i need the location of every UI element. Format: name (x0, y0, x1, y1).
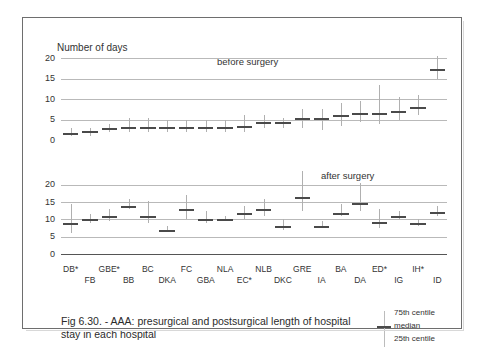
median-marker (159, 127, 174, 129)
x-axis-label-da: DA (354, 275, 366, 285)
median-marker (140, 127, 155, 129)
boxplot-series-after-surgery (39, 166, 449, 266)
x-axis-label-fb: FB (85, 275, 96, 285)
whisker-line (437, 206, 438, 216)
median-marker (275, 122, 290, 124)
axis-baseline (61, 254, 447, 255)
x-axis-label-gbestar: GBE* (99, 264, 120, 274)
legend-whisker-icon (384, 311, 385, 347)
x-axis-label-ig: IG (394, 275, 403, 285)
median-marker (391, 216, 406, 218)
median-marker (256, 122, 271, 124)
median-marker (295, 197, 310, 199)
figure-frame: Number of days before surgery 05101520 a… (22, 17, 462, 329)
x-axis-category-labels: DB*FBGBE*BBBCDKAFCGBANLAEC*NLBDKCGREIABA… (39, 264, 449, 290)
legend-label-25th: 25th centile (394, 334, 435, 344)
median-marker (275, 226, 290, 228)
figure-caption: Fig 6.30. - AAA: presurgical and postsur… (61, 315, 361, 341)
x-axis-label-dka: DKA (158, 275, 175, 285)
median-marker (352, 203, 367, 205)
x-axis-label-dkc: DKC (274, 275, 292, 285)
median-marker (121, 127, 136, 129)
whisker-line (379, 85, 380, 124)
median-marker (333, 213, 348, 215)
x-axis-label-ia: IA (318, 275, 326, 285)
whisker-line (71, 204, 72, 233)
median-marker (63, 133, 78, 135)
whisker-line (418, 95, 419, 115)
x-axis-label-nla: NLA (217, 264, 234, 274)
legend-median-icon (377, 326, 391, 328)
median-marker (430, 212, 445, 214)
median-marker (198, 219, 213, 221)
median-marker (372, 222, 387, 224)
chart-panel-before-surgery: Number of days before surgery 05101520 (39, 44, 449, 154)
median-marker (352, 113, 367, 115)
whisker-line (129, 118, 130, 132)
x-axis-label-ba: BA (335, 264, 346, 274)
whisker-line (264, 199, 265, 216)
median-marker (179, 127, 194, 129)
x-axis-label-gre: GRE (293, 264, 311, 274)
median-marker (63, 223, 78, 225)
chart-panel-after-surgery: after surgery 05101520 (39, 166, 449, 266)
median-marker (102, 216, 117, 218)
whisker-line (437, 56, 438, 78)
median-marker (410, 107, 425, 109)
median-marker (102, 128, 117, 130)
x-axis-label-bb: BB (123, 275, 134, 285)
median-marker (237, 213, 252, 215)
whisker-line (244, 115, 245, 131)
x-axis-label-fc: FC (181, 264, 192, 274)
legend-label-median: median (394, 321, 420, 331)
x-axis-label-dbstar: DB* (63, 264, 78, 274)
x-axis-label-edstar: ED* (372, 264, 387, 274)
x-axis-label-bc: BC (142, 264, 154, 274)
whisker-line (302, 171, 303, 211)
median-marker (391, 111, 406, 113)
x-axis-label-nlb: NLB (255, 264, 272, 274)
median-marker (295, 118, 310, 120)
median-marker (372, 113, 387, 115)
whisker-line (399, 97, 400, 119)
x-axis-label-id: ID (433, 275, 442, 285)
median-marker (217, 127, 232, 129)
median-marker (217, 219, 232, 221)
median-marker (82, 131, 97, 133)
whisker-line (360, 183, 361, 211)
median-marker (237, 126, 252, 128)
median-marker (179, 209, 194, 211)
median-marker (314, 118, 329, 120)
whisker-line (148, 118, 149, 132)
median-marker (430, 69, 445, 71)
whisker-line (360, 101, 361, 121)
median-marker (121, 206, 136, 208)
x-axis-label-ihstar: IH* (412, 264, 424, 274)
x-axis-label-ecstar: EC* (237, 275, 252, 285)
median-marker (410, 223, 425, 225)
median-marker (82, 219, 97, 221)
median-marker (314, 226, 329, 228)
whisker-line (379, 209, 380, 228)
median-marker (198, 127, 213, 129)
whisker-line (186, 195, 187, 219)
median-marker (333, 115, 348, 117)
x-axis-label-gba: GBA (197, 275, 215, 285)
boxplot-series-before-surgery (39, 44, 449, 154)
legend: 75th centile median 25th centile (375, 310, 461, 350)
median-marker (256, 209, 271, 211)
whisker-line (148, 201, 149, 223)
median-marker (140, 216, 155, 218)
legend-label-75th: 75th centile (394, 308, 435, 318)
median-marker (159, 230, 174, 232)
